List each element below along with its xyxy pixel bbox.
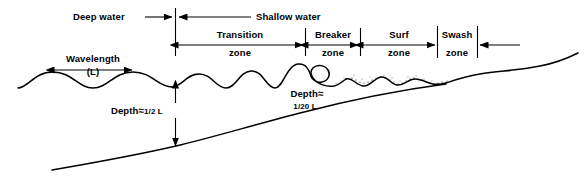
transition-zone-label-line1: Transition [217,29,263,40]
swash-zone-label-line2: zone [446,47,468,58]
break-depth-value: 1/20 L [293,101,316,112]
break-depth-approx-sign: ≈ [318,88,324,99]
transition-zone-label-line2: zone [229,47,251,58]
deep-depth-word: Depth [111,105,138,116]
break-depth-label-line1: Depth≈ [290,88,323,99]
swash-zone-label-line1: Swash [442,29,473,40]
surf-zone-label-line1: Surf [389,29,408,40]
breaker-zone-label-line1: Breaker [315,29,351,40]
deep-depth-value: 1/2 L [144,107,163,116]
deep-depth-label: Depth≈1/2 L [111,105,163,117]
transition-waves [172,64,311,88]
wave-zone-diagram: Deep water Shallow water Transition zone… [0,0,585,183]
surf-zone-label-line2: zone [388,47,410,58]
surf-waves [346,77,446,86]
deep-water-label: Deep water [73,11,125,22]
seabed-profile [52,84,446,170]
wavelength-symbol-label: (L) [87,66,99,77]
wavelength-label: Wavelength [66,53,120,64]
breaker-curl [311,66,346,87]
seabed-line [52,84,446,170]
shallow-water-label: Shallow water [256,11,321,22]
breaker-zone-label-line2: zone [322,47,344,58]
break-depth-word: Depth [290,88,317,99]
